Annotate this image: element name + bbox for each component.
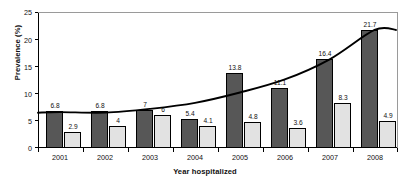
y-tick-label-5: 5 <box>10 118 32 125</box>
value-label-dark-2001: 6.8 <box>40 103 70 110</box>
bar-light-2007 <box>334 103 351 148</box>
x-tick-label-2006: 2006 <box>262 154 308 161</box>
bar-light-2003 <box>154 115 171 148</box>
bar-light-2002 <box>109 126 126 148</box>
x-tick-label-2008: 2008 <box>352 154 398 161</box>
value-label-dark-2005: 13.8 <box>220 65 250 72</box>
x-tick-label-2001: 2001 <box>37 154 83 161</box>
x-tick-mark-8 <box>397 148 398 152</box>
x-axis-title: Year hospitalized <box>0 167 410 176</box>
x-tick-mark-2 <box>128 148 129 152</box>
x-tick-mark-3 <box>173 148 174 152</box>
y-tick-mark-15 <box>35 66 38 67</box>
value-label-light-2006: 3.6 <box>283 120 313 127</box>
x-tick-label-2004: 2004 <box>172 154 218 161</box>
y-tick-mark-25 <box>35 12 38 13</box>
y-tick-mark-5 <box>35 120 38 121</box>
x-tick-label-2005: 2005 <box>217 154 263 161</box>
x-tick-mark-6 <box>308 148 309 152</box>
value-label-dark-2002: 6.8 <box>85 103 115 110</box>
bar-light-2001 <box>64 132 81 148</box>
y-tick-label-0: 0 <box>10 145 32 152</box>
bar-light-2008 <box>379 121 396 148</box>
bar-dark-2005 <box>226 73 243 148</box>
value-label-dark-2008: 21.7 <box>355 22 385 29</box>
y-tick-mark-10 <box>35 93 38 94</box>
bar-dark-2006 <box>271 88 288 148</box>
value-label-light-2005: 4.8 <box>238 114 268 121</box>
plot-frame-right <box>397 12 398 148</box>
bar-light-2005 <box>244 122 261 148</box>
bar-light-2004 <box>199 126 216 148</box>
bar-dark-2008 <box>361 30 378 148</box>
x-tick-mark-5 <box>263 148 264 152</box>
chart-figure: 0 5 10 15 20 25 Prevalence (%) 2001 2002… <box>0 0 410 194</box>
x-tick-mark-7 <box>353 148 354 152</box>
y-axis-title: Prevalence (%) <box>13 0 22 108</box>
plot-frame-top <box>38 12 398 13</box>
bar-dark-2002 <box>91 111 108 148</box>
x-tick-mark-4 <box>218 148 219 152</box>
y-tick-mark-20 <box>35 39 38 40</box>
x-tick-mark-0 <box>38 148 39 152</box>
value-label-light-2004: 4.1 <box>193 118 223 125</box>
x-tick-label-2007: 2007 <box>307 154 353 161</box>
value-label-dark-2004: 5.4 <box>175 111 205 118</box>
value-label-light-2008: 4.9 <box>373 113 403 120</box>
value-label-light-2003: 6 <box>148 107 178 114</box>
x-tick-label-2002: 2002 <box>82 154 128 161</box>
value-label-light-2002: 4 <box>103 118 133 125</box>
value-label-light-2007: 8.3 <box>328 95 358 102</box>
x-tick-mark-1 <box>83 148 84 152</box>
value-label-light-2001: 2.9 <box>58 124 88 131</box>
value-label-dark-2007: 16.4 <box>310 51 340 58</box>
bar-light-2006 <box>289 128 306 148</box>
bar-dark-2007 <box>316 59 333 148</box>
bar-dark-2003 <box>136 110 153 148</box>
x-tick-label-2003: 2003 <box>127 154 173 161</box>
value-label-dark-2006: 11.1 <box>265 80 295 87</box>
